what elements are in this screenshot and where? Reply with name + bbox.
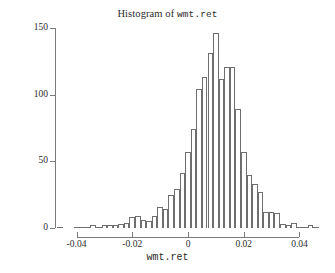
y-axis-tick-label: 100 [34,90,48,100]
x-axis-tick [132,232,133,237]
y-axis-tick [50,95,55,96]
x-axis-tick-label: 0.04 [274,239,324,250]
histogram-bar [313,227,319,228]
x-axis-tick [77,232,78,237]
x-axis-tick-label: 0 [163,239,213,250]
histogram-bar [57,227,63,228]
y-axis-tick-label: 150 [34,23,48,33]
plot-area [57,28,319,228]
y-axis-tick [50,161,55,162]
y-axis-tick [50,228,55,229]
histogram-bars [57,28,319,228]
x-axis-tick-label: 0.02 [219,239,269,250]
x-axis-tick [188,232,189,237]
y-axis-tick-label: 0 [43,223,48,233]
chart-title-prefix: Histogram of [117,8,177,19]
x-axis-line [77,237,300,238]
x-axis-title: wmt.ret [0,252,335,263]
x-axis-tick [244,232,245,237]
x-axis-tick [299,232,300,237]
chart-title: Histogram of wmt.ret [0,8,335,20]
histogram-figure: Histogram of wmt.ret Frequency 050100150… [0,0,335,273]
x-axis-tick-label: -0.02 [107,239,157,250]
y-axis-line [55,28,56,228]
y-axis-tick [50,28,55,29]
x-axis-tick-label: -0.04 [52,239,102,250]
y-axis-tick-label: 50 [39,156,49,166]
chart-title-variable: wmt.ret [177,9,218,20]
